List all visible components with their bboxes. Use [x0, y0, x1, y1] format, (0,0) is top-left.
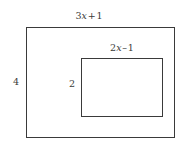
- inner-width-constant: 1: [128, 42, 134, 53]
- inner-width-variable: x: [116, 42, 122, 53]
- outer-width-operator: +: [87, 10, 96, 21]
- inner-rectangle-height-label: 2: [66, 79, 78, 89]
- geometry-figure-canvas: 3x+1 4 2x–1 2: [0, 0, 182, 144]
- outer-width-constant: 1: [96, 10, 102, 21]
- inner-rectangle-width-label: 2x–1: [81, 43, 163, 53]
- outer-rectangle-width-label: 3x+1: [0, 11, 182, 21]
- outer-rectangle-height-label: 4: [10, 77, 22, 87]
- inner-rectangle: [81, 58, 163, 117]
